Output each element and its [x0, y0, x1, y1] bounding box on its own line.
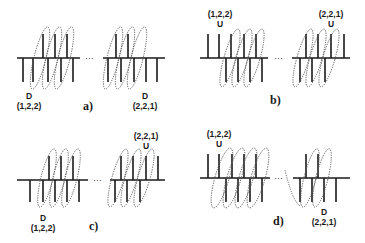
panel-a: ··· D (1,2,2) D (2,2,1) a): [17, 25, 165, 113]
panel-label: c): [89, 219, 98, 233]
site-marker-coords: (1,2,2): [17, 101, 42, 111]
site-marker-coords: (1,2,2): [207, 129, 232, 139]
site-marker-letter: D: [142, 91, 148, 101]
ellipsis: ···: [274, 173, 283, 183]
panel-c: ··· D (1,2,2) (2,2,1) U c): [17, 131, 165, 233]
dashed-loop: [58, 147, 84, 208]
panel-label: a): [83, 99, 93, 113]
dashed-loop-partial: [285, 170, 300, 206]
dashed-loop: [104, 148, 132, 209]
site-marker-coords: (1,2,2): [208, 9, 233, 19]
site-marker-letter: D: [40, 213, 46, 223]
site-marker-letter: D: [26, 91, 32, 101]
site-marker-coords: (2,2,1): [133, 101, 158, 111]
panel-label: b): [270, 93, 281, 107]
panel-label: d): [273, 214, 284, 228]
panel-b: ··· (1,2,2) U (2,2,1) U b): [200, 9, 350, 107]
site-marker-coords: (2,2,1): [134, 131, 159, 141]
site-marker-letter: U: [328, 19, 334, 29]
dashed-loop: [46, 147, 72, 208]
site-marker-letter: U: [143, 141, 149, 151]
site-marker-coords: (1,2,2): [31, 223, 56, 233]
dashed-loop: [130, 148, 158, 209]
ellipsis: ···: [85, 53, 94, 63]
site-marker-letter: U: [216, 139, 222, 149]
site-marker-letter: D: [321, 207, 327, 217]
panel-d: ··· (1,2,2) U D (2,2,1) d): [200, 129, 350, 228]
ellipsis: ···: [274, 53, 283, 63]
site-marker-letter: U: [217, 19, 223, 29]
dashed-loop: [34, 147, 60, 208]
site-marker-coords: (2,2,1): [312, 217, 337, 227]
four-panel-diagram: ··· D (1,2,2) D (2,2,1) a) ···: [0, 0, 365, 243]
site-marker-coords: (2,2,1): [319, 9, 344, 19]
ellipsis: ···: [93, 175, 102, 185]
